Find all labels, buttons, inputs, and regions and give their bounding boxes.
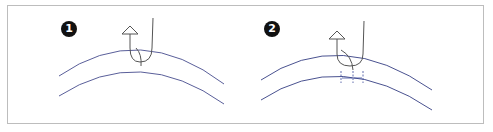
panel-1-curves [59, 50, 224, 104]
diagram-drawing [0, 0, 493, 132]
panel-1-probe [122, 18, 153, 66]
panel-2-curves [261, 55, 432, 110]
panel-2-probe [329, 21, 364, 70]
